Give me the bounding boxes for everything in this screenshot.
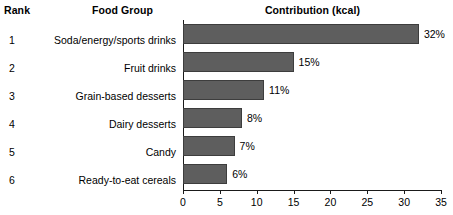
bar xyxy=(183,24,419,44)
bar-row: 15% xyxy=(183,48,441,76)
bar-value-label: 6% xyxy=(227,164,247,184)
rank-column: 123456 xyxy=(0,26,24,194)
rank-cell: 2 xyxy=(0,54,24,82)
x-axis-tick xyxy=(257,190,258,194)
bar xyxy=(183,136,235,156)
bar-row: 7% xyxy=(183,132,441,160)
food-group-cell: Dairy desserts xyxy=(24,110,180,138)
x-axis-tick-label: 10 xyxy=(251,196,263,208)
x-axis-tick-label: 5 xyxy=(217,196,223,208)
plot-area: 32%15%11%8%7%6% 05101520253035 xyxy=(183,20,441,190)
bar-value-label: 11% xyxy=(264,80,289,100)
x-axis-tick-label: 20 xyxy=(325,196,337,208)
bar xyxy=(183,164,227,184)
x-axis-tick-label: 15 xyxy=(288,196,300,208)
x-axis-tick xyxy=(220,190,221,194)
x-axis-tick xyxy=(183,190,184,194)
bar-value-label: 15% xyxy=(294,52,320,72)
bar-value-label: 7% xyxy=(235,136,255,156)
rank-cell: 1 xyxy=(0,26,24,54)
column-header-rank: Rank xyxy=(4,4,44,16)
bar-row: 6% xyxy=(183,160,441,188)
food-group-cell: Grain-based desserts xyxy=(24,82,180,110)
bar xyxy=(183,80,264,100)
chart-title-contribution: Contribution (kcal) xyxy=(235,4,390,16)
x-axis-tick xyxy=(404,190,405,194)
bar-value-label: 32% xyxy=(419,24,445,44)
food-group-cell: Ready-to-eat cereals xyxy=(24,166,180,194)
column-header-food-group: Food Group xyxy=(60,4,185,16)
rank-cell: 5 xyxy=(0,138,24,166)
food-group-column: Soda/energy/sports drinksFruit drinksGra… xyxy=(24,26,180,194)
bar xyxy=(183,52,294,72)
bar-row: 32% xyxy=(183,20,441,48)
bar xyxy=(183,108,242,128)
x-axis-tick-label: 25 xyxy=(361,196,373,208)
food-group-cell: Soda/energy/sports drinks xyxy=(24,26,180,54)
rank-cell: 3 xyxy=(0,82,24,110)
rank-cell: 6 xyxy=(0,166,24,194)
x-axis-tick xyxy=(367,190,368,194)
x-axis-tick-label: 0 xyxy=(180,196,186,208)
chart-page: Rank Food Group Contribution (kcal) 1234… xyxy=(0,0,453,215)
x-axis-tick xyxy=(330,190,331,194)
bar-row: 8% xyxy=(183,104,441,132)
x-axis-tick xyxy=(441,190,442,194)
rank-cell: 4 xyxy=(0,110,24,138)
x-axis-line xyxy=(183,190,441,191)
x-axis-tick-label: 35 xyxy=(435,196,447,208)
food-group-cell: Candy xyxy=(24,138,180,166)
x-axis-tick-label: 30 xyxy=(398,196,410,208)
bar-series: 32%15%11%8%7%6% xyxy=(183,20,441,188)
x-axis-tick xyxy=(294,190,295,194)
bar-value-label: 8% xyxy=(242,108,262,128)
bar-row: 11% xyxy=(183,76,441,104)
food-group-cell: Fruit drinks xyxy=(24,54,180,82)
